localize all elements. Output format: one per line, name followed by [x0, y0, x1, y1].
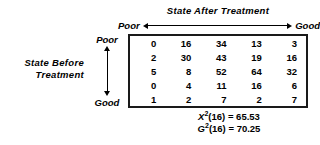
table-cell: 43 — [200, 50, 235, 64]
likelihood-ratio-df: (16) — [209, 123, 226, 134]
table-cell: 0 — [130, 36, 165, 50]
likelihood-ratio-value: 70.25 — [237, 123, 261, 134]
row-scale-bottom-label: Good — [95, 97, 120, 108]
table-cell: 32 — [271, 64, 306, 78]
table-row: 0 4 11 16 6 — [130, 78, 306, 92]
table-cell: 2 — [236, 92, 271, 106]
table-cell: 64 — [236, 64, 271, 78]
chi-square-equals: = — [228, 111, 234, 122]
table-cell: 16 — [165, 36, 200, 50]
likelihood-ratio-equals: = — [228, 123, 234, 134]
arrow-shaft — [147, 25, 289, 26]
column-axis-title: State After Treatment — [128, 5, 308, 16]
table-cell: 4 — [165, 78, 200, 92]
chi-square-df: (16) — [208, 111, 225, 122]
table-row: 0 16 34 13 3 — [130, 36, 306, 50]
likelihood-ratio-symbol: G — [198, 123, 205, 134]
table-cell: 34 — [200, 36, 235, 50]
table-cell: 11 — [200, 78, 235, 92]
horizontal-double-arrow-icon — [143, 21, 293, 30]
likelihood-ratio-statistic: G2(16) = 70.25 — [150, 123, 308, 135]
table-cell: 2 — [165, 92, 200, 106]
table-cell: 0 — [130, 78, 165, 92]
table-cell: 3 — [271, 36, 306, 50]
arrow-shaft — [107, 50, 108, 92]
row-axis-title-line1: State Before — [4, 57, 84, 69]
table-cell: 5 — [130, 64, 165, 78]
row-axis-title-line2: Treatment — [4, 69, 84, 81]
column-scale-high-label: Good — [295, 19, 320, 32]
contingency-table: 0 16 34 13 3 2 30 43 19 16 5 8 52 64 32 — [130, 36, 306, 106]
table-cell: 52 — [200, 64, 235, 78]
table-cell: 30 — [165, 50, 200, 64]
column-axis-scale: Poor Good — [118, 19, 320, 32]
table-cell: 13 — [236, 36, 271, 50]
arrow-head-down-icon — [104, 91, 110, 96]
statistics-block: X2(16) = 65.53 G2(16) = 70.25 — [150, 111, 308, 135]
table-row: 1 2 7 2 7 — [130, 92, 306, 106]
arrow-head-right-icon — [287, 23, 292, 29]
table-cell: 6 — [271, 78, 306, 92]
row-axis-scale: Poor Good — [88, 34, 126, 108]
vertical-double-arrow-icon — [103, 46, 112, 96]
table-cell: 2 — [130, 50, 165, 64]
chi-square-statistic: X2(16) = 65.53 — [150, 111, 308, 123]
table-cell: 7 — [271, 92, 306, 106]
row-scale-top-label: Poor — [96, 34, 118, 45]
table-cell: 1 — [130, 92, 165, 106]
table-cell: 7 — [200, 92, 235, 106]
column-scale-low-label: Poor — [118, 19, 140, 32]
table-cell: 16 — [271, 50, 306, 64]
table-row: 2 30 43 19 16 — [130, 50, 306, 64]
table-cell: 19 — [236, 50, 271, 64]
contingency-table-box: 0 16 34 13 3 2 30 43 19 16 5 8 52 64 32 — [128, 34, 308, 108]
contingency-table-body: 0 16 34 13 3 2 30 43 19 16 5 8 52 64 32 — [130, 36, 306, 106]
chi-square-value: 65.53 — [236, 111, 260, 122]
table-row: 5 8 52 64 32 — [130, 64, 306, 78]
table-cell: 8 — [165, 64, 200, 78]
row-axis-title: State Before Treatment — [4, 57, 84, 81]
table-cell: 16 — [236, 78, 271, 92]
